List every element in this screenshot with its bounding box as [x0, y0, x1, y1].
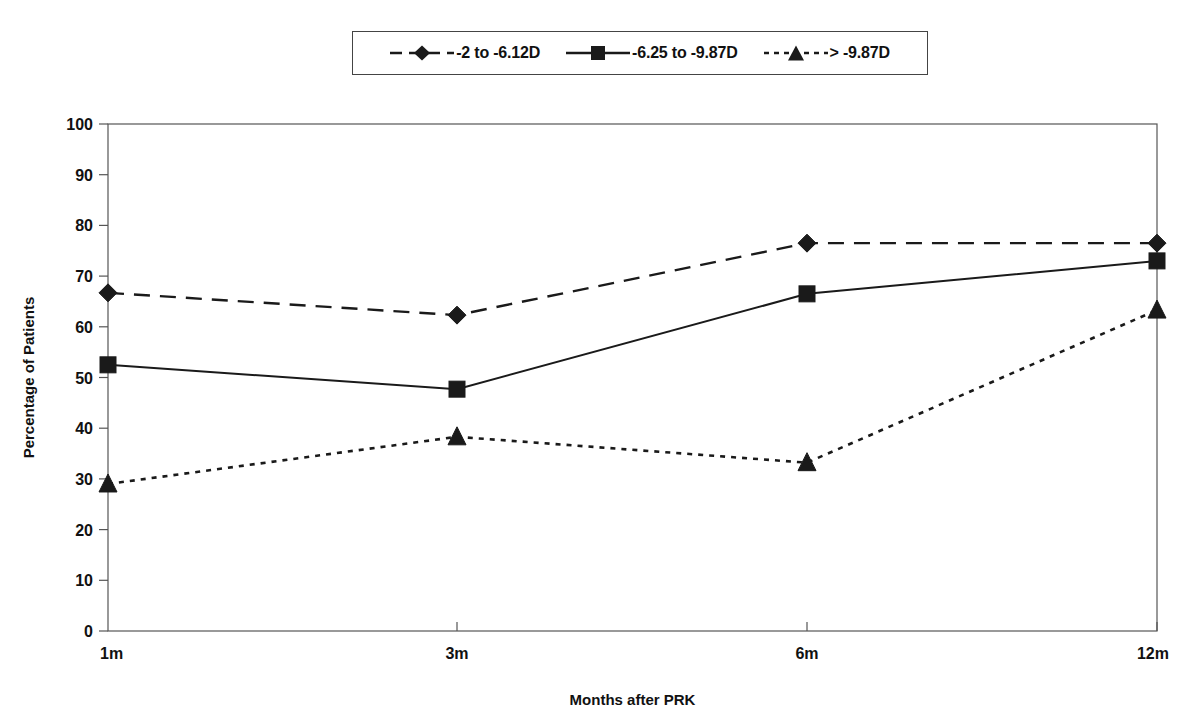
- x-tick-label-1m: 1m: [100, 645, 123, 662]
- x-axis: 1m3m6m12m: [100, 622, 1169, 662]
- y-tick-label-100: 100: [66, 116, 93, 133]
- series-line-2: [108, 310, 1157, 484]
- y-tick-label-80: 80: [75, 217, 93, 234]
- series-line-0: [108, 243, 1157, 315]
- data-series-group: [99, 234, 1166, 492]
- marker-triangle-12m: [1148, 300, 1166, 318]
- y-axis: 0102030405060708090100: [66, 116, 108, 640]
- y-tick-label-90: 90: [75, 167, 93, 184]
- y-tick-label-40: 40: [75, 420, 93, 437]
- marker-diamond-12m: [1148, 234, 1166, 252]
- y-tick-label-0: 0: [84, 623, 93, 640]
- x-tick-label-3m: 3m: [445, 645, 468, 662]
- x-tick-label-12m: 12m: [1137, 645, 1169, 662]
- chart-container: -2 to -6.12D -6.25 to -9.87D > -9.87D 01…: [0, 0, 1201, 725]
- marker-square-1m: [100, 357, 116, 373]
- marker-triangle-3m: [448, 427, 466, 445]
- y-tick-label-20: 20: [75, 522, 93, 539]
- x-axis-title: Months after PRK: [570, 691, 696, 708]
- marker-square-12m: [1149, 253, 1165, 269]
- marker-triangle-1m: [99, 474, 117, 492]
- x-tick-label-6m: 6m: [795, 645, 818, 662]
- plot-area: 0102030405060708090100 1m3m6m12m Months …: [0, 0, 1201, 725]
- marker-diamond-6m: [798, 234, 816, 252]
- series-0: [99, 234, 1166, 324]
- marker-square-3m: [449, 381, 465, 397]
- series-1: [100, 253, 1165, 397]
- marker-square-6m: [799, 286, 815, 302]
- y-tick-label-10: 10: [75, 572, 93, 589]
- y-tick-label-70: 70: [75, 268, 93, 285]
- y-tick-label-60: 60: [75, 319, 93, 336]
- y-axis-title: Percentage of Patients: [20, 297, 37, 459]
- marker-diamond-1m: [99, 284, 117, 302]
- y-tick-label-30: 30: [75, 471, 93, 488]
- y-tick-label-50: 50: [75, 370, 93, 387]
- marker-diamond-3m: [448, 306, 466, 324]
- series-2: [99, 300, 1166, 492]
